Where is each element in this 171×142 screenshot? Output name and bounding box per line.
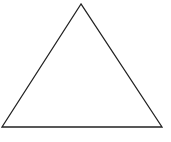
- diagram-canvas: [0, 0, 171, 142]
- triangle-shape: [2, 4, 162, 127]
